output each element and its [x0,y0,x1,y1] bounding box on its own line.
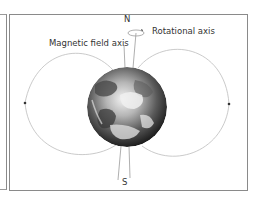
earth-magnetic-field-diagram [0,0,261,203]
magnetic-axis-line-bottom [118,146,121,180]
field-arrow-left-icon [24,102,27,105]
magnetic-field-axis-label: Magnetic field axis [49,39,129,48]
rotational-axis-line-bottom [129,146,130,178]
field-arrow-right-icon [228,103,231,106]
magnetic-axis-line-top [124,45,125,68]
earth-globe [87,67,167,147]
south-pole-label: S [122,178,127,187]
north-pole-label: N [124,15,130,24]
rotational-axis-line-top [133,33,136,68]
rotational-axis-label: Rotational axis [152,27,215,36]
